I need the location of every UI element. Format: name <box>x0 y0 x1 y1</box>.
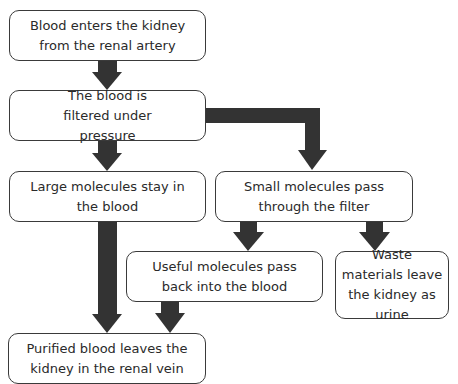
node-large-molecules: Large molecules stay in the blood <box>9 171 206 222</box>
node-text: Blood enters the kidney from the renal a… <box>14 16 201 56</box>
node-purified-blood: Purified blood leaves the kidney in the … <box>8 333 206 384</box>
node-text: Useful molecules pass back into the bloo… <box>131 257 318 297</box>
node-blood-enters: Blood enters the kidney from the renal a… <box>9 10 206 61</box>
node-small-molecules: Small molecules pass through the filter <box>215 171 413 222</box>
node-text: Purified blood leaves the kidney in the … <box>13 339 201 379</box>
arrow-n2-n4 <box>205 108 327 170</box>
node-text: Waste materials leave the kidney as urin… <box>340 245 444 325</box>
arrow-n4-n5 <box>233 221 264 251</box>
node-useful-molecules: Useful molecules pass back into the bloo… <box>126 251 323 302</box>
node-text: The blood is filtered under pressure <box>14 86 201 146</box>
node-text: Large molecules stay in the blood <box>14 177 201 217</box>
node-waste-materials: Waste materials leave the kidney as urin… <box>335 251 449 319</box>
node-filtered: The blood is filtered under pressure <box>9 90 206 141</box>
arrow-n3-n7 <box>92 221 122 333</box>
arrow-n5-n7 <box>155 302 185 333</box>
node-text: Small molecules pass through the filter <box>220 177 408 217</box>
